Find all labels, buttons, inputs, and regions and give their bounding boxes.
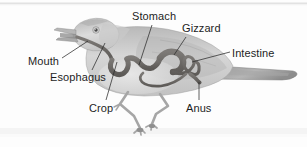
label-esophagus: Esophagus xyxy=(50,71,106,83)
bird-leg-front xyxy=(152,94,168,124)
label-stomach: Stomach xyxy=(132,10,176,22)
figure-canvas: Mouth Esophagus Crop Stomach Gizzard Int… xyxy=(0,0,307,147)
label-anus: Anus xyxy=(186,102,211,114)
label-gizzard: Gizzard xyxy=(182,22,221,34)
label-crop: Crop xyxy=(89,102,113,114)
mouth-leader xyxy=(62,41,88,58)
scan-band-bottom xyxy=(0,128,307,137)
scan-band-top xyxy=(0,3,307,6)
bird-anatomy-illustration xyxy=(0,0,307,147)
label-mouth: Mouth xyxy=(28,55,59,67)
label-intestine: Intestine xyxy=(232,47,274,59)
bird-leg-back xyxy=(120,92,140,128)
